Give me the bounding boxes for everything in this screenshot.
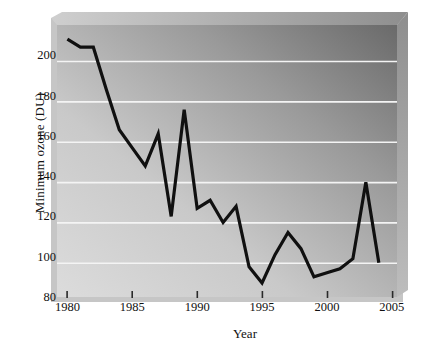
panel-right-bevel (397, 12, 408, 297)
plot-background (57, 25, 397, 297)
x-tick-label-1995: 1995 (232, 300, 292, 315)
x-tick-label-1985: 1985 (102, 300, 162, 315)
x-tick-labels: 198019851990199520002005 (0, 300, 445, 326)
y-tick-label-200: 200 (22, 48, 56, 63)
panel-top-bevel (51, 12, 408, 25)
y-tick-label-160: 160 (22, 128, 56, 143)
x-tick-label-2005: 2005 (362, 300, 422, 315)
y-tick-label-120: 120 (22, 209, 56, 224)
y-tick-label-180: 180 (22, 88, 56, 103)
x-tick-label-1990: 1990 (167, 300, 227, 315)
x-tick-label-2000: 2000 (297, 300, 357, 315)
chart-figure: Minimum ozone (DU) (0, 0, 445, 357)
y-tick-label-100: 100 (22, 249, 56, 264)
x-tick-label-1980: 1980 (37, 300, 97, 315)
x-axis-title: Year (55, 326, 435, 342)
y-tick-label-140: 140 (22, 169, 56, 184)
